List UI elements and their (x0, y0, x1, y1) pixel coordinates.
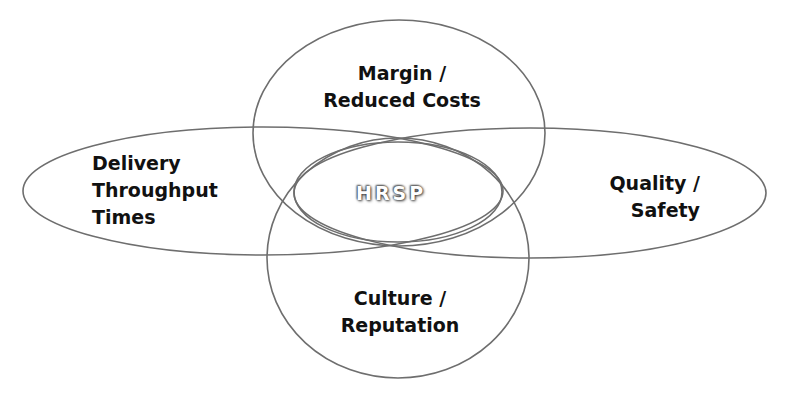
label-bottom-line-2: Reputation (320, 312, 480, 339)
ellipse-bottom-culture (267, 138, 529, 378)
label-top-margin: Margin / Reduced Costs (307, 60, 497, 114)
ellipse-top-margin (253, 20, 545, 246)
label-right-line-2: Safety (590, 197, 700, 224)
label-bottom-culture: Culture / Reputation (320, 285, 480, 339)
label-left-delivery: Delivery Throughput Times (92, 150, 218, 231)
label-left-line-1: Delivery (92, 150, 218, 177)
label-bottom-line-1: Culture / (320, 285, 480, 312)
center-label-hrsp: HRSP (356, 182, 426, 204)
label-top-line-2: Reduced Costs (307, 87, 497, 114)
label-left-line-2: Throughput (92, 177, 218, 204)
label-left-line-3: Times (92, 204, 218, 231)
label-top-line-1: Margin / (307, 60, 497, 87)
label-right-line-1: Quality / (590, 170, 700, 197)
label-right-quality: Quality / Safety (590, 170, 700, 224)
